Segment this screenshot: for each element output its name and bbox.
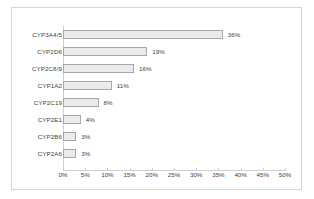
bar-track: 3%: [63, 145, 303, 162]
category-label: CYP2E1: [12, 111, 62, 128]
bar-row: CYP2A63%: [12, 145, 303, 162]
bar-value-label: 16%: [139, 63, 151, 74]
bar-value-label: 3%: [81, 131, 90, 142]
bar-row: CYP1A211%: [12, 77, 303, 94]
bar-value-label: 11%: [117, 80, 129, 91]
bar[interactable]: [63, 132, 76, 141]
x-axis-tick-labels: 0%5%10%15%20%25%30%35%40%45%50%: [63, 171, 285, 185]
category-label: CYP2C19: [12, 94, 62, 111]
category-label: CYP3A4/5: [12, 26, 62, 43]
category-label: CYP2B6: [12, 128, 62, 145]
bar-value-label: 8%: [104, 97, 113, 108]
x-axis-tick-label: 50%: [270, 171, 300, 178]
bar-track: 16%: [63, 60, 303, 77]
bar-row: CYP2C8/916%: [12, 60, 303, 77]
bar[interactable]: [63, 115, 81, 124]
category-label: CYP2D6: [12, 43, 62, 60]
bar-track: 36%: [63, 26, 303, 43]
category-label: CYP1A2: [12, 77, 62, 94]
bar[interactable]: [63, 149, 76, 158]
bar-value-label: 3%: [81, 148, 90, 159]
bar-row: CYP2E14%: [12, 111, 303, 128]
chart-frame: CYP3A4/536%CYP2D619%CYP2C8/916%CYP1A211%…: [11, 7, 302, 190]
bar-value-label: 36%: [228, 29, 240, 40]
bar-track: 4%: [63, 111, 303, 128]
bar-track: 11%: [63, 77, 303, 94]
category-label: CYP2A6: [12, 145, 62, 162]
bar-value-label: 4%: [86, 114, 95, 125]
bar[interactable]: [63, 47, 147, 56]
bar-row: CYP3A4/536%: [12, 26, 303, 43]
bar-row: CYP2D619%: [12, 43, 303, 60]
bar-track: 8%: [63, 94, 303, 111]
bar-row: CYP2C198%: [12, 94, 303, 111]
category-label: CYP2C8/9: [12, 60, 62, 77]
bar[interactable]: [63, 98, 99, 107]
bar-row: CYP2B63%: [12, 128, 303, 145]
bar-track: 3%: [63, 128, 303, 145]
plot-area: CYP3A4/536%CYP2D619%CYP2C8/916%CYP1A211%…: [12, 8, 303, 191]
bar-value-label: 19%: [152, 46, 164, 57]
bar-track: 19%: [63, 43, 303, 60]
bar[interactable]: [63, 30, 223, 39]
bar[interactable]: [63, 64, 134, 73]
bar[interactable]: [63, 81, 112, 90]
